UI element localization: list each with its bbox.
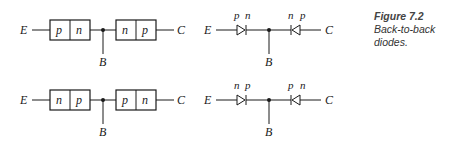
region-label: n xyxy=(122,23,128,37)
row1-diode-diagram: E p n B n p C xyxy=(203,9,334,69)
emitter-label: E xyxy=(203,23,212,37)
region-label: n xyxy=(142,93,148,107)
diode-right-icon xyxy=(237,95,245,105)
figure-label: Figure 7.2 xyxy=(374,10,462,23)
figure-caption: Figure 7.2 Back-to-back diodes. xyxy=(374,10,462,49)
diode-label: p xyxy=(233,9,240,21)
figure-description: Back-to-back diodes. xyxy=(374,23,462,49)
emitter-label: E xyxy=(19,93,28,107)
diode-label: n xyxy=(300,79,306,91)
base-label: B xyxy=(265,125,273,139)
diode-left-icon xyxy=(292,95,300,105)
collector-label: C xyxy=(325,93,334,107)
diode-label: p xyxy=(287,79,294,91)
region-label: p xyxy=(141,23,148,37)
diode-right-icon xyxy=(237,25,245,35)
collector-label: C xyxy=(177,23,186,37)
region-label: n xyxy=(76,23,82,37)
region-label: p xyxy=(75,93,82,107)
emitter-label: E xyxy=(19,23,28,37)
emitter-label: E xyxy=(203,93,212,107)
diode-label: p xyxy=(299,9,306,21)
region-label: p xyxy=(121,93,128,107)
row2-block-diagram: E n p B p n C xyxy=(19,90,186,139)
base-label: B xyxy=(99,125,107,139)
region-label: p xyxy=(55,23,62,37)
row2-diode-diagram: E n p B p n C xyxy=(203,79,334,139)
diode-label: n xyxy=(234,79,240,91)
row1-block-diagram: E p n B n p C xyxy=(19,20,186,69)
diode-label: p xyxy=(244,79,251,91)
diode-left-icon xyxy=(292,25,300,35)
collector-label: C xyxy=(177,93,186,107)
base-label: B xyxy=(265,55,273,69)
region-label: n xyxy=(56,93,62,107)
diode-label: n xyxy=(288,9,294,21)
collector-label: C xyxy=(325,23,334,37)
base-label: B xyxy=(99,55,107,69)
diode-label: n xyxy=(245,9,251,21)
